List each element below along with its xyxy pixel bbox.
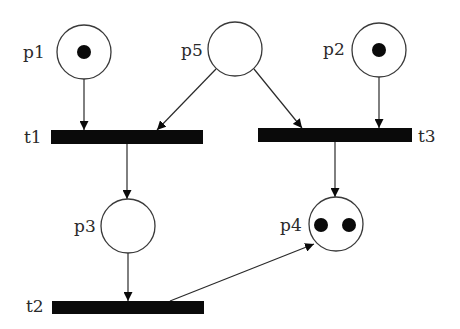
label-p5: p5 xyxy=(181,40,203,60)
label-t2: t2 xyxy=(26,296,44,316)
place-p3 xyxy=(101,199,155,253)
token-icon xyxy=(342,218,356,232)
transition-t3 xyxy=(258,128,412,142)
label-p2: p2 xyxy=(323,39,345,59)
label-p4: p4 xyxy=(280,215,302,235)
arc-p5-t3 xyxy=(254,69,302,128)
arc-p5-t1 xyxy=(157,69,216,130)
label-t3: t3 xyxy=(418,126,436,146)
transition-t2 xyxy=(52,301,204,314)
arc-t2-p4 xyxy=(170,244,314,301)
petri-net-diagram: p1 p5 p2 t1 t3 p3 p4 t2 xyxy=(0,0,460,329)
token-icon xyxy=(77,45,91,59)
place-p5 xyxy=(208,22,262,76)
arcs xyxy=(84,69,379,301)
label-p1: p1 xyxy=(23,42,45,62)
label-p3: p3 xyxy=(74,216,96,236)
transition-t1 xyxy=(51,130,203,144)
token-icon xyxy=(372,43,386,57)
label-t1: t1 xyxy=(24,127,42,147)
token-icon xyxy=(314,218,328,232)
